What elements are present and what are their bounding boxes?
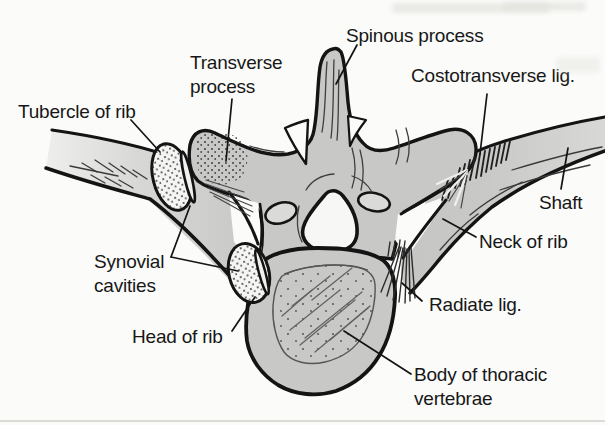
scan-bleed-artifact — [556, 57, 600, 73]
label-head-of-rib: Head of rib — [132, 325, 223, 349]
label-tubercle-of-rib: Tubercle of rib — [18, 100, 136, 124]
leader-costotransverse-lig — [480, 94, 487, 154]
label-synovial-line2: cavities — [94, 274, 164, 298]
label-transverse-process-line1: Transverse — [190, 51, 282, 75]
label-radiate-lig: Radiate lig. — [429, 293, 522, 317]
label-costotransverse-lig: Costotransverse lig. — [411, 64, 575, 88]
label-neck-of-rib: Neck of rib — [479, 230, 568, 254]
label-shaft: Shaft — [539, 191, 582, 215]
label-body-line1: Body of thoracic — [414, 363, 547, 387]
scan-edge-line — [0, 420, 605, 422]
label-transverse-process-line2: process — [190, 75, 282, 99]
label-transverse-process: Transverse process — [190, 51, 282, 99]
scan-bleed-artifact — [502, 2, 586, 11]
transverse-process-tip-stipple — [196, 132, 248, 184]
label-body-line2: vertebrae — [414, 387, 547, 411]
label-synovial-cavities: Synovial cavities — [94, 250, 164, 298]
label-synovial-line1: Synovial — [94, 250, 164, 274]
anatomy-figure: Tubercle of rib Transverse process Spino… — [0, 0, 605, 425]
label-spinous-process: Spinous process — [346, 24, 483, 48]
label-body-of-thoracic-vertebrae: Body of thoracic vertebrae — [414, 363, 547, 411]
